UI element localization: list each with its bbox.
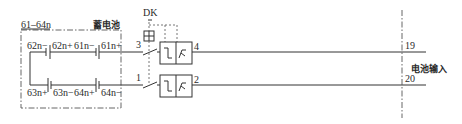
cell-label: 62n+ <box>52 40 73 51</box>
protection-block-top <box>160 42 192 64</box>
cell-label: 64n+ <box>74 87 95 98</box>
terminal-label: 3 <box>136 39 141 50</box>
top-cell-row: 62n− 62n+ 61n− 61n+ <box>27 40 122 59</box>
battery-range-label: 61–64n <box>21 19 51 30</box>
bottom-cell-row: 63n+ 63n− 64n+ 64n− <box>27 78 122 98</box>
cell-label: 61n+ <box>101 40 122 51</box>
cell-label: 61n− <box>74 40 95 51</box>
output-terminal: 20 <box>405 73 415 84</box>
cell-label: 63n− <box>53 87 74 98</box>
output-terminal: 19 <box>405 40 415 51</box>
terminal-label: 2 <box>194 74 199 85</box>
terminal-label: 1 <box>136 72 141 83</box>
switch-label: DK <box>143 7 158 18</box>
cell-label: 62n− <box>27 40 48 51</box>
output-label: 电池输入 <box>411 63 447 74</box>
terminal-label: 4 <box>194 41 199 52</box>
switch-contact-top <box>143 49 157 55</box>
protection-block-bottom <box>160 75 192 97</box>
cell-label: 64n− <box>101 87 122 98</box>
battery-circuit-diagram: 61–64n 蓄电池 62n− 62n+ 61n− 61n+ 63n+ 63n−… <box>0 0 462 124</box>
switch-contact-bottom <box>143 82 157 88</box>
cell-label: 63n+ <box>27 87 48 98</box>
battery-title: 蓄电池 <box>93 19 120 30</box>
